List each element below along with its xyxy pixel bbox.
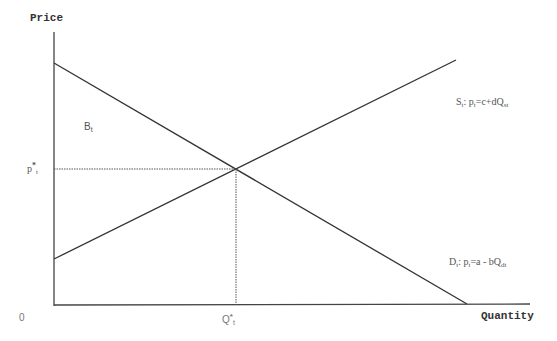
supply-curve xyxy=(54,60,456,259)
demand-curve xyxy=(54,63,467,304)
demand-equation-label: Dt: pt=a - bQdt xyxy=(449,256,507,269)
supply-demand-chart xyxy=(0,0,557,341)
x-axis-label: Quantity xyxy=(481,310,534,322)
supply-equation-label: St: pt=c+dQst xyxy=(456,96,508,109)
y-axis-label: Price xyxy=(30,12,63,24)
origin-label: 0 xyxy=(19,312,25,323)
consumer-surplus-label: Bt xyxy=(84,121,93,133)
equilibrium-price-label: p*t xyxy=(27,161,38,176)
x-axis xyxy=(54,304,530,305)
equilibrium-quantity-label: Q*t xyxy=(222,312,235,326)
